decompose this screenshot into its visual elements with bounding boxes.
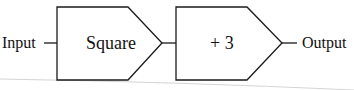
output-label: Output bbox=[302, 35, 346, 51]
add-three-block-label: + 3 bbox=[210, 34, 234, 52]
function-pipeline-diagram: Input Square + 3 Output bbox=[0, 0, 354, 90]
diagram-shapes bbox=[0, 0, 354, 90]
square-block-label: Square bbox=[86, 34, 136, 52]
input-label: Input bbox=[2, 35, 36, 51]
